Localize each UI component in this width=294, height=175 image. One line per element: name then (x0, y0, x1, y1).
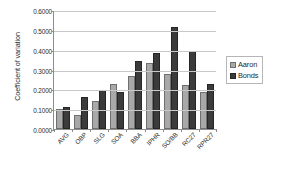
y-tick-label: 0.3000 (16, 67, 52, 74)
legend-item-bonds: Bonds (230, 70, 258, 81)
y-tick-label: 0.6000 (16, 8, 52, 15)
x-tickmark (216, 129, 217, 132)
bar-bonds-so-bb (171, 27, 178, 129)
y-tickmark (51, 31, 54, 32)
gridline (54, 51, 216, 52)
y-tickmark (51, 110, 54, 111)
bar-aaron-iphr (146, 63, 153, 129)
y-tick-label: 0.1000 (16, 107, 52, 114)
bar-aaron-rc27 (182, 85, 189, 129)
y-tick-label: 0.4000 (16, 47, 52, 54)
legend-swatch-icon-aaron (230, 62, 236, 68)
y-tick-label: 0.0000 (16, 127, 52, 134)
gridline (54, 31, 216, 32)
bar-aaron-slg (92, 101, 99, 129)
gridline (54, 110, 216, 111)
gridline (54, 11, 216, 12)
legend: Aaron Bonds (226, 56, 263, 84)
y-tickmark (51, 11, 54, 12)
y-tickmark (51, 71, 54, 72)
y-tickmark (51, 90, 54, 91)
legend-item-aaron: Aaron (230, 59, 258, 70)
gridline (54, 71, 216, 72)
legend-label-bonds: Bonds (238, 71, 258, 80)
bar-aaron-bba (128, 76, 135, 129)
y-tickmark (51, 51, 54, 52)
x-axis-tick-labels: AVGOBPSLGSOABBAIPHRSO/BBRC27RPR27 (53, 131, 216, 175)
gridline (54, 90, 216, 91)
bar-aaron-avg (56, 109, 63, 129)
y-tick-label: 0.2000 (16, 87, 52, 94)
bar-chart: Coefficient of variation 0.60000.50000.4… (0, 0, 294, 175)
legend-label-aaron: Aaron (238, 60, 257, 69)
bar-bonds-obp (81, 97, 88, 129)
bar-aaron-obp (74, 115, 81, 129)
y-tick-label: 0.5000 (16, 27, 52, 34)
legend-swatch-icon-bonds (230, 73, 236, 79)
plot-area (53, 11, 216, 130)
bar-aaron-so-bb (164, 74, 171, 129)
